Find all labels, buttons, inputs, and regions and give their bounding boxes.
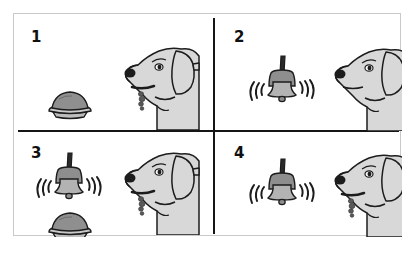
panel-number-4: 4 [234, 146, 244, 161]
food-bowl-icon [47, 86, 93, 120]
dog-salivating-illustration [119, 145, 209, 235]
panel-pairing-stimuli: 3 [14, 131, 214, 237]
ringing-bell-icon [249, 52, 315, 110]
figure-frame: 1 [13, 13, 401, 236]
dog-salivating-illustration [329, 147, 402, 237]
panel-conditioned-response: 4 [214, 131, 402, 237]
ringing-bell-icon [249, 155, 315, 213]
dog-neutral-illustration [329, 41, 402, 131]
panel-neutral-stimulus: 2 [214, 14, 402, 131]
food-bowl-icon [47, 207, 93, 237]
panel-number-1: 1 [31, 30, 41, 45]
panel-number-2: 2 [234, 30, 244, 45]
ringing-bell-icon [36, 149, 102, 207]
dog-salivating-illustration [119, 40, 209, 130]
panel-unconditioned-stimulus: 1 [14, 14, 214, 131]
classical-conditioning-figure: 1 [0, 0, 418, 253]
